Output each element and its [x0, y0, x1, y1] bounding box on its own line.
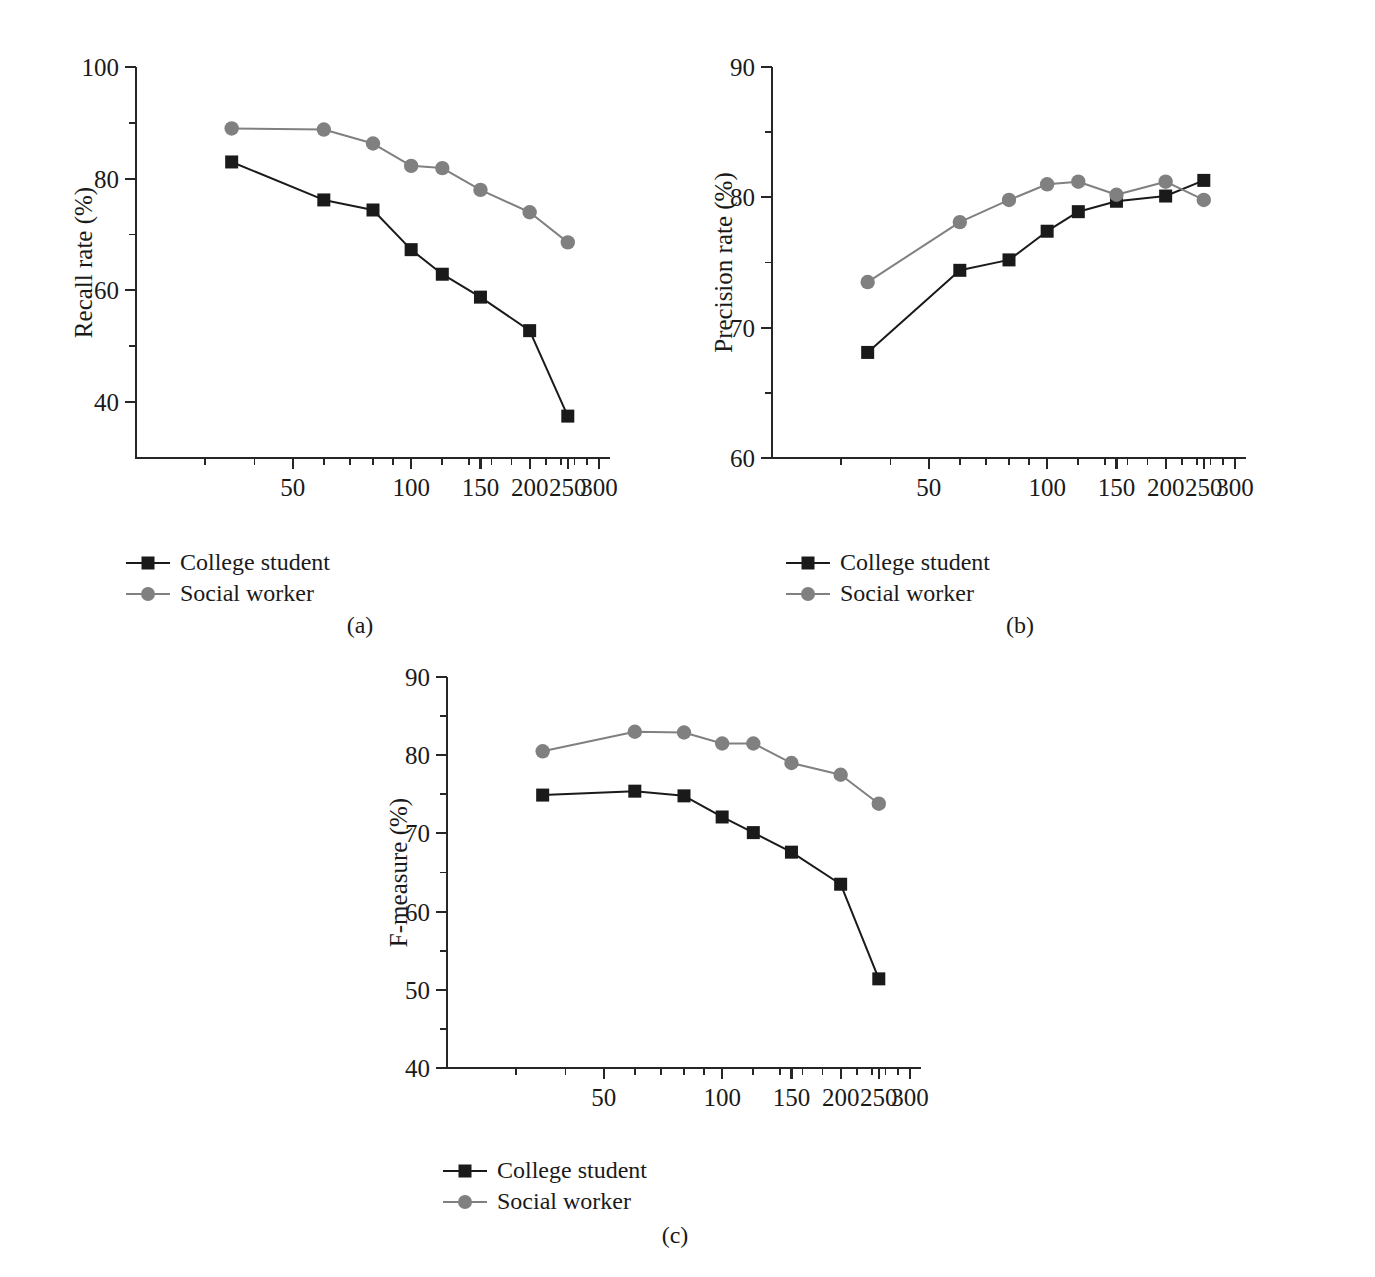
data-point-circle-marker [1109, 188, 1123, 202]
y-axis-title: F-measure (%) [385, 798, 413, 947]
data-point-circle-marker [522, 205, 536, 219]
x-tick-label: 100 [392, 474, 430, 501]
chart-panel-b: 6070809050100150200250300Distance thresh… [710, 45, 1350, 515]
data-point-square-marker [628, 785, 641, 798]
y-tick-label: 80 [94, 166, 119, 193]
x-axis-title: Distance threshold (m) [258, 514, 487, 515]
data-point-square-marker [1003, 253, 1016, 266]
recall-rate-chart: 40608010050100150200250300Distance thres… [70, 45, 710, 515]
data-point-circle-marker [833, 768, 847, 782]
data-point-circle-marker [1158, 174, 1172, 188]
legend-item-social-worker: Social worker [443, 1186, 647, 1217]
legend-item-social-worker: Social worker [126, 578, 330, 609]
y-tick-label: 50 [405, 977, 430, 1004]
x-tick-label: 200 [511, 474, 548, 501]
data-point-square-marker [861, 346, 874, 359]
x-tick-label: 100 [703, 1084, 741, 1111]
x-axis-title: Distance threshold (m) [569, 1124, 798, 1125]
legend-item-college-student: College student [443, 1155, 647, 1186]
data-point-circle-marker [1071, 174, 1085, 188]
data-point-circle-marker [535, 744, 549, 758]
data-point-circle-marker [784, 756, 798, 770]
data-point-circle-marker [404, 159, 418, 173]
data-point-circle-marker [628, 725, 642, 739]
data-point-circle-marker [746, 736, 760, 750]
data-point-square-marker [953, 264, 966, 277]
data-point-square-marker [225, 155, 238, 168]
legend-item-social-worker: Social worker [786, 578, 990, 609]
y-tick-label: 80 [405, 742, 430, 769]
data-point-circle-marker [1197, 193, 1211, 207]
y-axis-title: Recall rate (%) [70, 187, 98, 338]
data-point-circle-marker [366, 136, 380, 150]
data-point-square-marker [678, 789, 691, 802]
data-point-square-marker [523, 324, 536, 337]
data-point-circle-marker [1002, 193, 1016, 207]
data-point-square-marker [317, 193, 330, 206]
y-tick-label: 90 [730, 54, 755, 81]
y-tick-label: 40 [405, 1055, 430, 1082]
data-point-circle-marker [473, 183, 487, 197]
data-point-square-marker [1197, 174, 1210, 187]
y-axis-title: Precision rate (%) [710, 172, 738, 352]
data-point-square-marker [367, 203, 380, 216]
square-marker-icon [443, 1162, 487, 1180]
circle-marker-icon [126, 585, 170, 603]
chart-panel-c: 40506070809050100150200250300Distance th… [385, 655, 1025, 1125]
subcaption-b: (b) [960, 612, 1080, 639]
f-measure-chart: 40506070809050100150200250300Distance th… [385, 655, 1025, 1125]
chart-panel-a: 40608010050100150200250300Distance thres… [70, 45, 710, 515]
data-point-circle-marker [561, 235, 575, 249]
x-tick-label: 200 [822, 1084, 860, 1111]
y-tick-label: 40 [94, 389, 119, 416]
data-point-square-marker [405, 243, 418, 256]
legend-label-college-student: College student [497, 1153, 647, 1187]
legend-label-college-student: College student [180, 545, 330, 579]
data-point-square-marker [834, 878, 847, 891]
data-point-square-marker [474, 291, 487, 304]
series-line-square [868, 180, 1204, 352]
legend-label-social-worker: Social worker [180, 576, 314, 610]
x-tick-label: 300 [1216, 474, 1254, 501]
data-point-circle-marker [435, 161, 449, 175]
x-tick-label: 150 [1098, 474, 1136, 501]
data-point-circle-marker [677, 725, 691, 739]
precision-rate-chart: 6070809050100150200250300Distance thresh… [710, 45, 1350, 515]
x-tick-label: 150 [462, 474, 500, 501]
subcaption-c: (c) [615, 1222, 735, 1249]
x-tick-label: 300 [891, 1084, 929, 1111]
series-line-circle [232, 128, 568, 242]
legend-panel-b: College student Social worker [786, 547, 990, 609]
data-point-circle-marker [317, 122, 331, 136]
x-tick-label: 50 [591, 1084, 616, 1111]
data-point-circle-marker [860, 275, 874, 289]
x-tick-label: 300 [580, 474, 618, 501]
x-tick-label: 100 [1028, 474, 1066, 501]
legend-label-social-worker: Social worker [840, 576, 974, 610]
data-point-circle-marker [1040, 177, 1054, 191]
data-point-square-marker [1072, 205, 1085, 218]
legend-item-college-student: College student [126, 547, 330, 578]
legend-label-college-student: College student [840, 545, 990, 579]
y-tick-label: 90 [405, 664, 430, 691]
x-tick-label: 200 [1147, 474, 1185, 501]
data-point-square-marker [1041, 225, 1054, 238]
data-point-square-marker [436, 268, 449, 281]
data-point-square-marker [747, 826, 760, 839]
y-tick-label: 100 [82, 54, 120, 81]
circle-marker-icon [786, 585, 830, 603]
data-point-square-marker [561, 410, 574, 423]
square-marker-icon [786, 554, 830, 572]
data-point-square-marker [716, 810, 729, 823]
y-tick-label: 60 [730, 445, 755, 472]
legend-panel-c: College student Social worker [443, 1155, 647, 1217]
data-point-square-marker [785, 846, 798, 859]
circle-marker-icon [443, 1193, 487, 1211]
subcaption-a: (a) [300, 612, 420, 639]
figure-root: 40608010050100150200250300Distance thres… [0, 0, 1375, 1277]
legend-item-college-student: College student [786, 547, 990, 578]
data-point-circle-marker [872, 796, 886, 810]
legend-panel-a: College student Social worker [126, 547, 330, 609]
series-line-square [232, 162, 568, 416]
data-point-square-marker [872, 972, 885, 985]
